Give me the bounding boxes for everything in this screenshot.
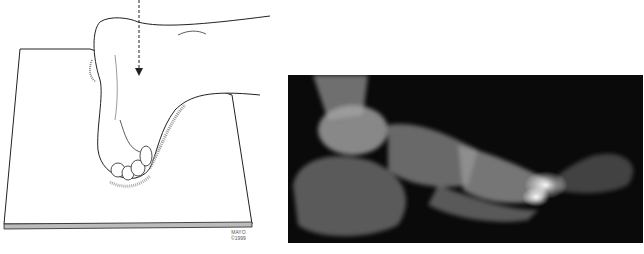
- illustration-credit: MAYO ©1999: [231, 229, 246, 241]
- credit-line-2: ©1999: [231, 235, 246, 241]
- foot-drawing-icon: [0, 0, 280, 254]
- xray-image-icon: [288, 75, 643, 243]
- foot-illustration: MAYO ©1999: [0, 0, 280, 254]
- foot-radiograph: [288, 75, 643, 243]
